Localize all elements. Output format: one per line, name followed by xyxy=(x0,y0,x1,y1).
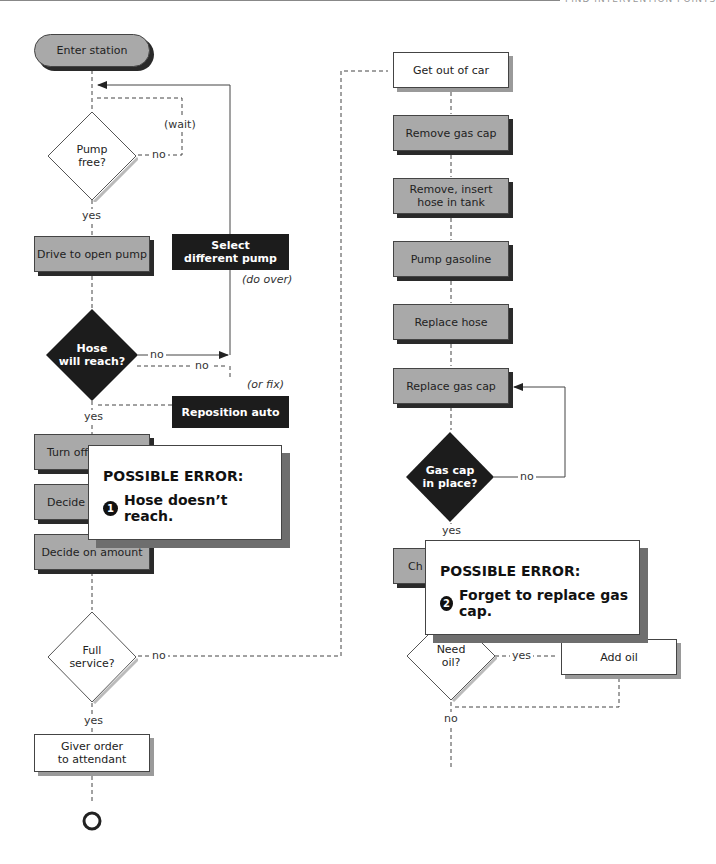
label-yes: yes xyxy=(440,524,463,537)
step-give-order: Giver orderto attendant xyxy=(34,734,150,772)
step-add-oil: Add oil xyxy=(561,639,677,675)
decision-label: Hosewill reach? xyxy=(45,308,139,402)
step-label: Giver orderto attendant xyxy=(58,740,127,766)
step-pump-gasoline: Pump gasoline xyxy=(393,241,509,277)
step-select-different-pump: Selectdifferent pump xyxy=(172,234,289,270)
start-node-enter-station: Enter station xyxy=(34,34,150,67)
error-callout-1: POSSIBLE ERROR: 1Hose doesn’t reach. xyxy=(88,445,282,540)
note-do-over: (do over) xyxy=(240,273,294,286)
label-no: no xyxy=(442,712,460,725)
decision-pump-free: Pumpfree? xyxy=(46,110,138,202)
step-get-out-of-car: Get out of car xyxy=(393,52,509,88)
label-yes: yes xyxy=(80,209,103,222)
step-label: Decide on amount xyxy=(41,546,142,559)
decision-full-service: Fullservice? xyxy=(46,610,138,704)
step-label: Get out of car xyxy=(413,64,489,77)
label-wait: (wait) xyxy=(162,118,198,131)
decision-label: Pumpfree? xyxy=(46,110,138,202)
step-label: Turn off xyxy=(47,446,88,459)
label-yes: yes xyxy=(82,410,105,423)
number-badge-icon: 1 xyxy=(103,501,118,516)
step-reposition-auto: Reposition auto xyxy=(172,396,289,428)
step-label: Remove, inserthose in tank xyxy=(410,183,493,209)
step-label: Replace hose xyxy=(414,316,487,329)
step-insert-hose: Remove, inserthose in tank xyxy=(393,178,509,214)
error-title: POSSIBLE ERROR: xyxy=(440,563,639,579)
step-label: Pump gasoline xyxy=(411,253,492,266)
error-text-row: 1Hose doesn’t reach. xyxy=(103,492,281,524)
decision-label: Fullservice? xyxy=(46,610,138,704)
label-no: no xyxy=(150,148,168,161)
error-text: Forget to replace gas cap. xyxy=(459,587,639,619)
step-label: Replace gas cap xyxy=(406,380,496,393)
step-label: Reposition auto xyxy=(182,406,280,419)
step-replace-gas-cap: Replace gas cap xyxy=(393,368,509,404)
number-badge-icon: 2 xyxy=(440,596,453,611)
label-yes: yes xyxy=(82,714,105,727)
label-no: no xyxy=(150,649,168,662)
decision-label: Gas capin place? xyxy=(405,431,495,523)
label-no: no xyxy=(518,470,536,483)
step-remove-gas-cap: Remove gas cap xyxy=(393,115,509,151)
error-callout-2: POSSIBLE ERROR: 2Forget to replace gas c… xyxy=(425,540,640,635)
decision-hose-will-reach: Hosewill reach? xyxy=(45,308,139,402)
step-drive-to-pump: Drive to open pump xyxy=(34,236,150,272)
step-label: Add oil xyxy=(600,651,638,664)
step-label: Decide xyxy=(47,496,85,509)
step-label: Ch xyxy=(408,560,423,573)
start-label: Enter station xyxy=(57,44,128,57)
decision-gas-cap-in-place: Gas capin place? xyxy=(405,431,495,523)
error-text: Hose doesn’t reach. xyxy=(124,492,281,524)
error-text-row: 2Forget to replace gas cap. xyxy=(440,587,639,619)
step-label: Selectdifferent pump xyxy=(184,239,277,265)
step-label: Drive to open pump xyxy=(37,248,147,261)
label-no: no xyxy=(193,359,211,372)
label-no: no xyxy=(148,348,166,361)
step-label: Remove gas cap xyxy=(406,127,497,140)
error-title: POSSIBLE ERROR: xyxy=(103,468,281,484)
note-or-fix: (or fix) xyxy=(245,378,286,391)
step-replace-hose: Replace hose xyxy=(393,304,509,340)
label-yes: yes xyxy=(510,649,533,662)
